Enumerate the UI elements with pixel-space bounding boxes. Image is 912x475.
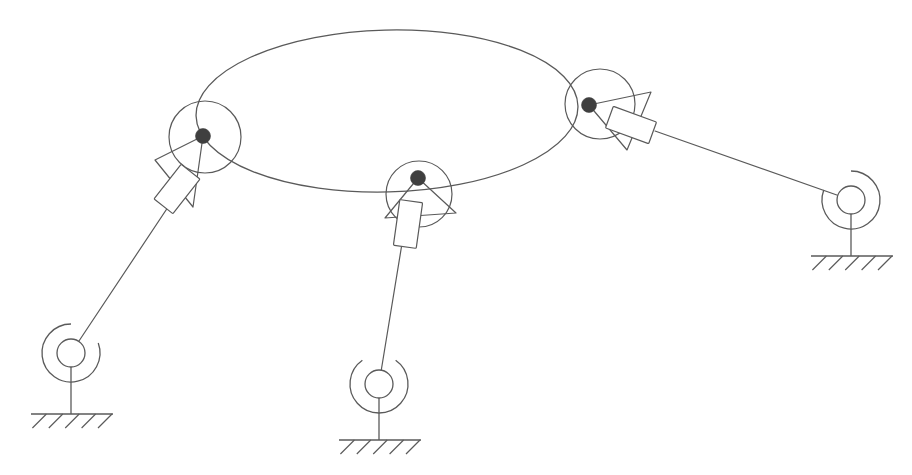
ground-hatch-mark [862,256,876,270]
ground-hatching-middle [340,440,420,454]
platform-ellipse [194,25,580,197]
ground-hatch-mark [82,414,96,428]
ground-hub-middle [365,370,393,398]
ground-hub-left [57,339,85,367]
ground-hatch-mark [49,414,63,428]
pivot-dot-right [582,98,597,113]
rod-right [655,131,851,200]
ground-hatch-mark [65,414,79,428]
ground-hatch-mark [390,440,404,454]
ground-hatch-mark [812,256,826,270]
ground-hatch-mark [373,440,387,454]
ground-hatch-mark [340,440,354,454]
prismatic-slider-right [605,106,656,143]
ground-hatching-left [32,414,112,428]
ground-hatch-mark [357,440,371,454]
ground-hatch-mark [845,256,859,270]
moving-platform [194,25,580,197]
ground-hatch-mark [878,256,892,270]
pivot-dot-left [196,129,211,144]
joint-assembly-right [565,69,657,150]
ground-hatching-right [812,256,892,270]
kinematic-diagram-canvas [0,0,912,475]
prismatic-slider-middle [393,200,422,249]
ground-hatch-mark [406,440,420,454]
ground-hatch-mark [829,256,843,270]
mechanism-drawing [0,0,912,475]
ground-hub-right [837,186,865,214]
ground-support-left [31,324,113,428]
pivot-dot-middle [411,171,426,186]
ground-hatch-mark [32,414,46,428]
ground-hatch-mark [98,414,112,428]
ground-support-right [811,171,893,270]
ground-support-middle [339,360,421,454]
